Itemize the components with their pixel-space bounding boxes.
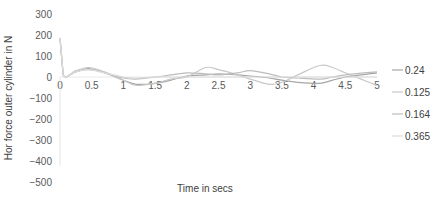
y-axis-title: Hor force outer cylinder in N: [3, 36, 14, 161]
y-tick-label: 100: [35, 51, 52, 62]
x-tick-label: 0.5: [85, 80, 99, 91]
x-tick-label: 5: [374, 80, 380, 91]
y-tick-label: −500: [29, 177, 52, 188]
legend: 0.240.1250.1640.365: [392, 65, 430, 142]
series-lines: [60, 38, 377, 85]
series-line-0-365: [60, 38, 377, 78]
line-chart: 3002001000−100−200−300−400−500 00.511.52…: [0, 0, 446, 203]
x-tick-label: 2: [184, 80, 190, 91]
y-tick-label: −200: [29, 114, 52, 125]
y-tick-label: −400: [29, 156, 52, 167]
x-tick-label: 2.5: [212, 80, 226, 91]
legend-label: 0.164: [405, 109, 430, 120]
x-tick-label: 3: [247, 80, 253, 91]
x-axis-title: Time in secs: [177, 183, 233, 194]
y-tick-label: −100: [29, 93, 52, 104]
series-line-0-125: [60, 38, 377, 85]
x-tick-label: 4.5: [338, 80, 352, 91]
x-tick-label: 4: [311, 80, 317, 91]
y-tick-label: −300: [29, 135, 52, 146]
legend-label: 0.24: [405, 65, 425, 76]
x-axis-ticks: 00.511.522.533.544.55: [57, 80, 380, 91]
legend-label: 0.125: [405, 87, 430, 98]
y-tick-label: 300: [35, 9, 52, 20]
legend-label: 0.365: [405, 131, 430, 142]
y-axis-ticks: 3002001000−100−200−300−400−500: [29, 9, 52, 188]
y-tick-label: 0: [46, 72, 52, 83]
y-tick-label: 200: [35, 30, 52, 41]
